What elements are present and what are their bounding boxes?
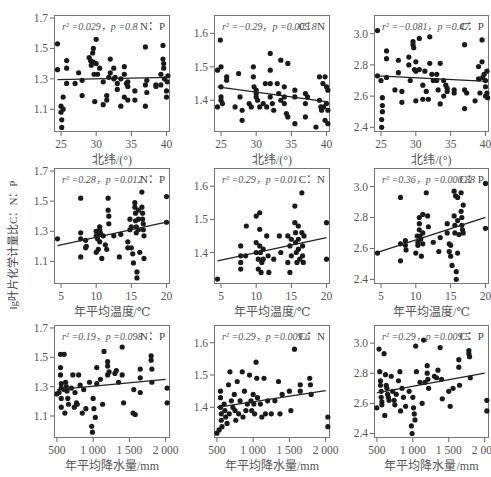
data-point: [287, 389, 292, 394]
data-point: [130, 251, 135, 256]
data-point: [59, 396, 64, 401]
data-point: [410, 395, 415, 400]
data-point: [278, 58, 283, 63]
data-point: [268, 94, 273, 99]
data-point: [75, 402, 80, 407]
data-point: [420, 401, 425, 406]
data-point: [131, 387, 136, 392]
data-point: [70, 372, 75, 377]
data-point: [65, 396, 70, 401]
data-point: [422, 69, 427, 74]
data-point: [441, 94, 446, 99]
data-point: [382, 413, 387, 418]
x-tick-label: 15: [126, 290, 138, 302]
data-point: [280, 392, 285, 397]
data-point: [448, 254, 453, 259]
data-point: [292, 88, 297, 93]
data-point: [417, 36, 422, 41]
x-axis-title: 年平均降水量/mm: [65, 459, 160, 473]
scatter-panel-r2-c1: 1.41.51.65001 0001 5002 000年平均降水量/mmr² =…: [184, 325, 332, 476]
data-point: [251, 392, 256, 397]
ratio-label: C：P: [460, 330, 484, 342]
data-point: [141, 256, 146, 261]
y-tick-label: 2.6: [354, 90, 369, 102]
data-point: [484, 69, 489, 74]
data-point: [454, 269, 459, 274]
data-point: [445, 230, 450, 235]
data-point: [449, 263, 454, 268]
data-point: [289, 237, 294, 242]
data-point: [118, 104, 123, 109]
stats-annotation: r² =0.29，p =0.009 6: [222, 331, 310, 342]
data-point: [378, 78, 383, 83]
data-point: [299, 190, 304, 195]
data-point: [240, 414, 245, 419]
data-point: [292, 347, 297, 352]
data-point: [64, 81, 69, 86]
data-point: [285, 114, 290, 119]
data-point: [301, 260, 306, 265]
data-point: [236, 411, 241, 416]
x-axis-title: 年平均降水量/mm: [225, 459, 320, 473]
data-point: [292, 204, 297, 209]
data-point: [452, 90, 457, 95]
x-axis-title: 年平均温度/℃: [393, 304, 470, 319]
data-point: [101, 349, 106, 354]
data-point: [434, 72, 439, 77]
data-point: [266, 270, 271, 275]
data-point: [406, 55, 411, 60]
data-point: [455, 218, 460, 223]
data-point: [459, 209, 464, 214]
data-point: [438, 61, 443, 66]
data-point: [72, 81, 77, 86]
data-point: [58, 372, 63, 377]
stats-annotation: r² =0.28，p =0.012: [62, 174, 142, 185]
stats-annotation: r² =−0.081，p =0.47: [382, 21, 470, 32]
x-tick-label: 5: [58, 290, 64, 302]
data-point: [55, 41, 60, 46]
data-point: [143, 82, 148, 87]
data-point: [87, 380, 92, 385]
data-point: [158, 72, 163, 77]
data-point: [378, 383, 383, 388]
data-point: [417, 221, 422, 226]
data-point: [254, 376, 259, 381]
x-tick-label: 40: [161, 138, 173, 150]
data-point: [219, 418, 224, 423]
data-point: [384, 56, 389, 61]
data-point: [389, 374, 394, 379]
data-point: [268, 81, 273, 86]
ratio-label: C：N: [299, 20, 325, 32]
data-point: [120, 344, 125, 349]
data-point: [285, 61, 290, 66]
data-point: [55, 236, 60, 241]
data-point: [164, 194, 169, 199]
data-point: [122, 64, 127, 69]
data-point: [413, 343, 418, 348]
data-point: [233, 418, 238, 423]
data-point: [121, 400, 126, 405]
data-point: [413, 98, 418, 103]
data-point: [252, 411, 257, 416]
data-point: [300, 253, 305, 258]
y-tick-label: 1.4: [194, 94, 209, 106]
data-point: [398, 408, 403, 413]
x-tick-label: 20: [480, 290, 491, 302]
data-point: [298, 382, 303, 387]
data-point: [392, 87, 397, 92]
data-point: [61, 94, 66, 99]
data-point: [412, 411, 417, 416]
x-tick-label: 35: [445, 138, 457, 150]
data-point: [62, 352, 67, 357]
plot-frame: [55, 169, 170, 284]
data-point: [138, 390, 143, 395]
data-point: [90, 430, 95, 435]
data-point: [108, 56, 113, 61]
data-point: [103, 242, 108, 247]
data-point: [322, 74, 327, 79]
ratio-label: N：P: [140, 330, 165, 342]
y-tick-label: 1.7: [34, 322, 49, 334]
x-tick-label: 1 500: [436, 444, 462, 456]
data-point: [138, 366, 143, 371]
y-tick-label: 1.4: [194, 401, 209, 413]
